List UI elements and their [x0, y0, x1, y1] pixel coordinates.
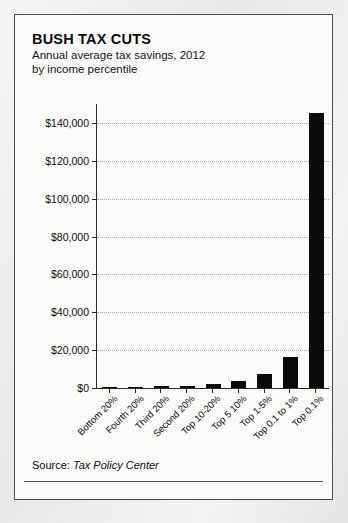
bar: [180, 386, 195, 388]
x-axis-tick: [238, 389, 239, 393]
chart-subtitle: Annual average tax savings, 2012 by inco…: [32, 49, 205, 76]
x-axis-tick: [264, 389, 265, 393]
x-axis-tick: [109, 389, 110, 393]
x-axis-tick: [135, 389, 136, 393]
x-axis-tick: [160, 389, 161, 393]
y-axis-tick-label: $60,000: [51, 268, 89, 280]
y-axis-tick: [92, 123, 96, 124]
y-axis-tick-label: $80,000: [51, 231, 89, 243]
y-axis-tick-label: $0: [77, 382, 89, 394]
y-axis-tick: [92, 161, 96, 162]
x-axis-tick: [289, 389, 290, 393]
bar-series: [97, 104, 329, 388]
bar: [309, 113, 324, 388]
bar: [102, 387, 117, 389]
page-title: BUSH TAX CUTS: [32, 31, 151, 47]
source-organization: Tax Policy Center: [73, 459, 159, 471]
bar: [154, 386, 169, 388]
bar: [231, 381, 246, 388]
y-axis-tick: [92, 350, 96, 351]
bar: [257, 374, 272, 388]
bar: [128, 387, 143, 389]
x-axis-tick: [212, 389, 213, 393]
y-axis-tick-label: $120,000: [45, 155, 89, 167]
y-axis-tick-label: $100,000: [45, 193, 89, 205]
y-axis-tick-label: $140,000: [45, 117, 89, 129]
y-axis-tick: [92, 388, 96, 389]
x-axis-tick: [186, 389, 187, 393]
chart-card: BUSH TAX CUTS Annual average tax savings…: [14, 14, 333, 500]
y-axis-tick-label: $40,000: [51, 306, 89, 318]
y-axis-tick: [92, 199, 96, 200]
source-prefix: Source:: [32, 459, 73, 471]
source-note: Source: Tax Policy Center: [32, 459, 159, 471]
plot-area: $0$20,000$40,000$60,000$80,000$100,000$1…: [96, 104, 329, 389]
bottom-divider: [24, 481, 323, 482]
y-axis-tick: [92, 312, 96, 313]
bar: [206, 384, 221, 388]
y-axis-tick: [92, 237, 96, 238]
bar: [283, 357, 298, 388]
y-axis-tick: [92, 274, 96, 275]
y-axis-tick-label: $20,000: [51, 344, 89, 356]
x-axis-tick: [315, 389, 316, 393]
